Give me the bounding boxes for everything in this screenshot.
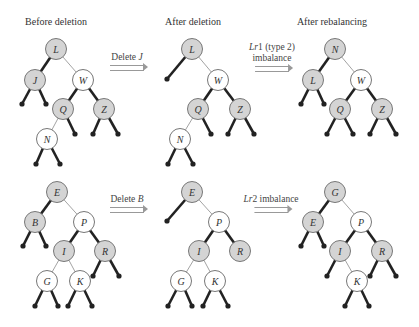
tree-node-E: E <box>47 182 68 203</box>
null-leaf-icon <box>350 131 355 136</box>
node-label: N <box>176 134 185 145</box>
null-leaf-icon <box>367 131 372 136</box>
null-leaf-icon <box>200 303 205 308</box>
null-leaf-icon <box>20 243 25 248</box>
node-label: E <box>53 187 60 198</box>
null-leaf-icon <box>225 303 230 308</box>
tree-node-K: K <box>205 271 226 292</box>
tree-node-I: I <box>330 241 351 262</box>
node-label: N <box>331 44 340 55</box>
tree-node-P: P <box>351 212 372 233</box>
node-label: K <box>76 276 85 287</box>
null-leaf-icon <box>65 303 70 308</box>
null-leaf-icon <box>164 218 169 223</box>
tree-node-G: G <box>325 182 346 203</box>
op-text: Delete <box>111 194 138 204</box>
tree-node-L: L <box>303 70 324 91</box>
node-label: G <box>177 276 184 287</box>
tree-node-N: N <box>170 129 191 150</box>
node-label: L <box>188 44 195 55</box>
tree-top-before: LJWQZN <box>19 39 120 167</box>
tree-node-K: K <box>70 271 91 292</box>
node-label: R <box>236 246 243 257</box>
null-leaf-icon <box>72 131 77 136</box>
tree-node-R: R <box>372 241 393 262</box>
arrow-icon <box>255 66 289 72</box>
node-label: Q <box>336 104 344 115</box>
tree-node-R: R <box>230 241 251 262</box>
tree-node-Z: Z <box>230 99 251 120</box>
operation-delete-j: Delete J <box>110 52 144 71</box>
op-text: 1 (type 2) <box>258 42 295 52</box>
node-label: I <box>196 246 201 257</box>
tree-node-L: L <box>46 39 67 60</box>
title-after-rebalancing: After rebalancing <box>297 16 367 27</box>
tree-node-N: N <box>325 39 346 60</box>
null-leaf-icon <box>43 243 48 248</box>
null-leaf-icon <box>165 303 170 308</box>
null-leaf-icon <box>32 303 37 308</box>
null-leaf-icon <box>208 131 213 136</box>
tree-node-P: P <box>209 212 230 233</box>
tree-node-Q: Q <box>188 99 209 120</box>
tree-node-N: N <box>37 129 58 150</box>
tree-node-I: I <box>189 241 210 262</box>
null-leaf-icon <box>189 303 194 308</box>
null-leaf-icon <box>57 161 62 166</box>
op-key: J <box>138 52 142 62</box>
null-leaf-icon <box>115 131 120 136</box>
null-leaf-icon <box>190 161 195 166</box>
tree-node-Q: Q <box>330 99 351 120</box>
null-leaf-icon <box>298 243 303 248</box>
null-leaf-icon <box>89 303 94 308</box>
null-leaf-icon <box>324 131 329 136</box>
op-key: B <box>138 194 144 204</box>
tree-node-R: R <box>95 241 116 262</box>
tree-diagram-canvas: LJWQZNLWQZNNLWQZEBPIRGKEPIRGKGEPIRK <box>0 0 419 327</box>
null-leaf-icon <box>366 303 371 308</box>
operation-delete-b: Delete B <box>110 194 144 213</box>
null-leaf-icon <box>165 161 170 166</box>
node-label: K <box>211 276 220 287</box>
tree-bottom-after-deletion: EPIRGK <box>164 182 250 309</box>
operation-lr1-imbalance: Lr1 (type 2) imbalance <box>249 42 295 72</box>
node-label: B <box>32 217 38 228</box>
arrow-icon <box>254 207 288 213</box>
null-leaf-icon <box>55 303 60 308</box>
tree-node-E: E <box>182 182 203 203</box>
tree-node-W: W <box>73 70 94 91</box>
null-leaf-icon <box>90 273 95 278</box>
null-leaf-icon <box>33 161 38 166</box>
node-label: I <box>337 246 342 257</box>
tree-node-W: W <box>208 70 229 91</box>
tree-node-Z: Z <box>94 99 115 120</box>
arrow-icon <box>110 207 144 213</box>
null-leaf-icon <box>393 273 398 278</box>
tree-node-G: G <box>171 271 192 292</box>
null-leaf-icon <box>90 131 95 136</box>
tree-node-P: P <box>74 212 95 233</box>
op-text: Delete <box>111 52 138 62</box>
null-leaf-icon <box>19 101 24 106</box>
null-leaf-icon <box>321 243 326 248</box>
node-label: J <box>33 75 38 86</box>
node-label: G <box>43 276 50 287</box>
null-leaf-icon <box>43 101 48 106</box>
tree-node-J: J <box>25 70 46 91</box>
null-leaf-icon <box>321 101 326 106</box>
node-label: G <box>331 187 338 198</box>
title-before-deletion: Before deletion <box>25 16 87 27</box>
tree-node-G: G <box>37 271 58 292</box>
null-leaf-icon <box>164 76 169 81</box>
tree-node-E: E <box>303 212 324 233</box>
node-label: Z <box>237 104 243 115</box>
node-label: L <box>309 75 316 86</box>
node-label: Q <box>59 104 67 115</box>
node-label: E <box>309 217 316 228</box>
node-label: P <box>215 217 222 228</box>
null-leaf-icon <box>298 101 303 106</box>
tree-node-K: K <box>347 271 368 292</box>
node-label: Z <box>379 104 385 115</box>
tree-node-W: W <box>351 70 372 91</box>
node-label: L <box>52 44 59 55</box>
